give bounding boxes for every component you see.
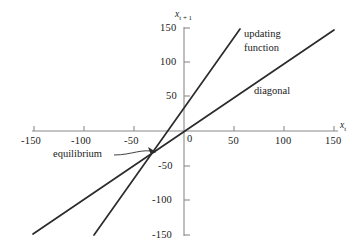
y-tick-label--100: -100 <box>152 194 172 206</box>
y-tick-label-150: 150 <box>160 22 176 34</box>
y-tick-label--150: -150 <box>152 229 172 241</box>
x-tick-label--100: -100 <box>71 135 91 147</box>
y-tick-label-50: 50 <box>166 90 177 102</box>
x-tick-label--150: -150 <box>21 135 41 147</box>
x-tick-label-50: 50 <box>228 135 239 147</box>
y-tick-label--50: -50 <box>158 160 173 172</box>
annotation-updating-function-line2: function <box>244 42 279 54</box>
x-axis-label-subscript: t <box>344 125 346 133</box>
y-axis-label-subscript: t + 1 <box>179 14 192 22</box>
x-tick-label-150: 150 <box>325 135 341 147</box>
equilibrium-arrow <box>114 147 156 155</box>
y-axis-label: xt + 1 <box>175 9 192 23</box>
annotation-diagonal: diagonal <box>254 85 290 97</box>
x-tick-label-0: 0 <box>187 133 192 145</box>
x-tick-label--50: -50 <box>124 135 139 147</box>
phase-line-plot <box>0 0 352 247</box>
y-tick-label-100: 100 <box>160 56 176 68</box>
annotation-equilibrium: equilibrium <box>53 148 102 160</box>
x-tick-label-100: 100 <box>275 135 291 147</box>
x-axis-label: xt <box>340 120 346 134</box>
annotation-updating-function-line1: updating <box>244 28 281 40</box>
